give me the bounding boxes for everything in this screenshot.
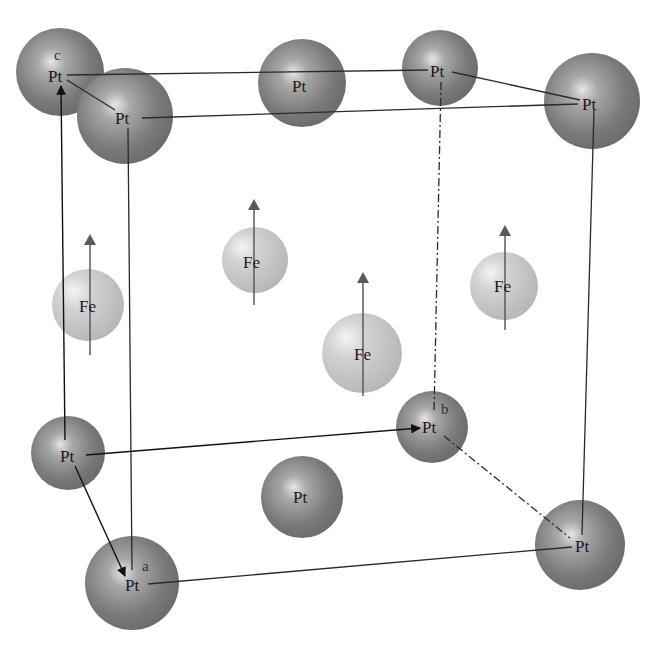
axis-label-a: a [142, 558, 149, 574]
label-fe-center: Fe [354, 345, 371, 364]
label-fe-left: Fe [79, 297, 96, 316]
label-pt-top-front-left: Pt [115, 109, 129, 128]
label-pt-bottom-back-right: Pt [422, 418, 436, 437]
arrow-up-icon [499, 225, 511, 236]
label-pt-top-face: Pt [292, 77, 306, 96]
label-pt-top-back-left: Pt [48, 67, 62, 86]
edge-vertical-front-right [582, 110, 594, 535]
edge-vertical-back-right [434, 82, 441, 413]
arrow-up-icon [84, 234, 96, 245]
atoms-layer [16, 28, 640, 630]
label-fe-right: Fe [494, 277, 511, 296]
label-pt-bottom-front-left: Pt [125, 576, 139, 595]
axis-label-c: c [54, 47, 61, 63]
label-fe-back: Fe [243, 253, 260, 272]
c-axis-arrow [61, 86, 65, 440]
b-axis-arrow [86, 428, 420, 455]
arrow-up-icon [357, 272, 369, 283]
label-pt-bottom-front-right: Pt [575, 537, 589, 556]
spin-arrows [84, 199, 511, 396]
label-pt-top-back-right: Pt [430, 62, 444, 81]
label-pt-top-front-right: Pt [582, 95, 596, 114]
arrow-up-icon [248, 199, 260, 210]
label-pt-bottom-face: Pt [293, 488, 307, 507]
edge-top-front [142, 104, 578, 118]
label-pt-bottom-back-left: Pt [60, 447, 74, 466]
fept-unit-cell-diagram: Pt Pt Pt Pt Pt Pt Pt Pt Pt Pt Fe Fe Fe F… [0, 0, 665, 650]
edge-bottom-front [148, 547, 572, 584]
edge-vertical-front-left [128, 128, 132, 570]
axis-label-b: b [441, 401, 449, 417]
